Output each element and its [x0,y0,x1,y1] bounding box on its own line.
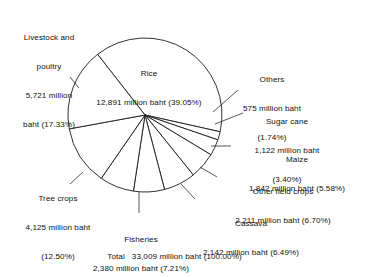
slice-label-rice-line1: Rice [78,69,220,79]
slice-label-treecrops-line1: Tree crops [6,194,110,204]
slice-label-treecrops-line2: 4,125 million baht [6,223,110,233]
slice-label-treecrops-line3: (12.50%) [6,252,110,262]
slice-label-rice-line2: 12,891 million baht (39.05%) [78,98,220,108]
chart-total-label: Total [107,252,125,262]
slice-label-others-line1: Others [224,75,320,85]
slice-label-treecrops: Tree crops 4,125 million baht (12.50%) [6,175,110,277]
chart-total-row: Total33,009 million baht (100.00%) [98,242,328,271]
slice-label-maize-line1: Maize [229,155,365,165]
slice-label-livestock-line1: Livestock and [2,33,96,43]
leader-line-cassava [181,184,195,199]
chart-total-value: 33,009 million baht (100.00%) [132,252,242,262]
slice-label-sugarcane-line1: Sugar cane [235,117,339,127]
slice-label-other-field-crops-line1: Other field crops [207,187,359,197]
slice-label-rice: Rice 12,891 million baht (39.05%) [78,50,220,127]
